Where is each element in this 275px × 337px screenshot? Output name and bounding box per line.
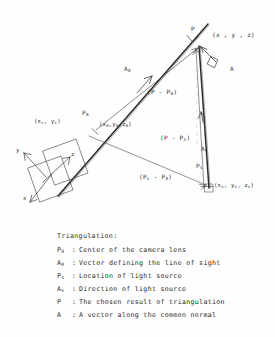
legend-description: The chosen result of triangulation bbox=[79, 298, 225, 306]
camera-image-plane-front bbox=[43, 139, 88, 185]
legend-item: P : The chosen result of triangulation bbox=[57, 298, 272, 311]
legend-symbol: P bbox=[57, 298, 72, 306]
legend-description: Vector defining the line of sight bbox=[79, 259, 221, 267]
legend-item: P0 : Center of the camera lens bbox=[57, 246, 272, 259]
legend-item: As : Direction of light source bbox=[57, 285, 272, 298]
legend-item: A0 : Vector defining the line of sight bbox=[57, 259, 272, 272]
legend-separator: : bbox=[72, 298, 79, 306]
legend-symbol: Ps bbox=[57, 272, 72, 280]
label-point-p: P bbox=[191, 26, 195, 32]
axis-y-arrow bbox=[24, 153, 46, 177]
label-p-coordinates: (x , y , z) bbox=[212, 32, 255, 38]
legend-separator: : bbox=[72, 246, 79, 254]
label-axis-z: z bbox=[71, 152, 75, 158]
legend-symbol: As bbox=[57, 285, 72, 293]
legend-description: Direction of light source bbox=[79, 285, 186, 293]
common-normal-vector-a bbox=[201, 47, 217, 63]
axis-x-arrow bbox=[30, 174, 52, 202]
label-point-p0: P0 bbox=[82, 110, 89, 117]
label-vector-a: A bbox=[230, 66, 234, 72]
legend-symbol: A0 bbox=[57, 259, 72, 267]
label-axis-x: x bbox=[23, 196, 27, 202]
label-vector-p-minus-p0: (P - P0) bbox=[147, 89, 177, 96]
label-point-ps: Ps bbox=[196, 163, 203, 170]
figure-canvas: P (x , y , z) A A0 As P0 (x0,y0,z0) Ps (… bbox=[0, 0, 275, 337]
camera-image-plane-back bbox=[28, 156, 73, 202]
legend-separator: : bbox=[72, 285, 79, 293]
label-vector-as: As bbox=[201, 146, 208, 153]
label-ps-coordinates: (xs, ys, zs) bbox=[214, 183, 254, 189]
legend-description: A vector along the common normal bbox=[79, 311, 216, 319]
legend: Triangulation: P0 : Center of the camera… bbox=[57, 232, 272, 324]
legend-separator: : bbox=[72, 311, 79, 319]
legend-item: Ps : Location of light source bbox=[57, 272, 272, 285]
label-camera-coordinates: (xc, yc) bbox=[34, 119, 61, 125]
legend-separator: : bbox=[72, 272, 79, 280]
legend-title: Triangulation: bbox=[57, 232, 272, 240]
legend-description: Center of the camera lens bbox=[79, 246, 186, 254]
legend-symbol: A bbox=[57, 311, 72, 319]
legend-description: Location of light source bbox=[79, 272, 182, 280]
label-p0-coordinates: (x0,y0,z0) bbox=[99, 122, 132, 128]
label-vector-p-minus-ps: (P - Ps) bbox=[160, 135, 190, 142]
line-of-sight-ray bbox=[58, 24, 208, 196]
label-axis-y: y bbox=[16, 148, 20, 154]
label-vector-a0: A0 bbox=[124, 66, 131, 73]
legend-item: A : A vector along the common normal bbox=[57, 311, 272, 324]
legend-symbol: P0 bbox=[57, 246, 72, 254]
legend-separator: : bbox=[72, 259, 79, 267]
label-vector-ps-minus-p0: (Ps - P0) bbox=[139, 174, 172, 181]
